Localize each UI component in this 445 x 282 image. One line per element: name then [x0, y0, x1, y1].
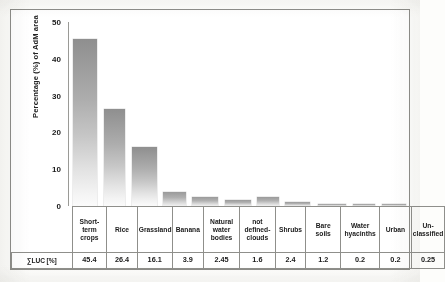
bar-slot: [221, 22, 254, 206]
y-tick-50: 50: [35, 18, 61, 27]
bar-grassland[interactable]: [132, 147, 157, 206]
value-cell: 45.4: [72, 253, 107, 269]
category-header-line: Banana: [176, 226, 200, 233]
category-header-cell: Waterhyacinths: [341, 207, 380, 253]
category-header-cell: Shrubs: [275, 207, 306, 253]
category-header-cell: Grassland: [137, 207, 172, 253]
category-header-line: clouds: [247, 234, 269, 241]
data-table: 0 Short-termcropsRiceGrasslandBananaNatu…: [11, 206, 445, 269]
category-header-line: water: [213, 226, 230, 233]
category-header-line: Shrubs: [279, 226, 302, 233]
category-header-line: Rice: [115, 226, 129, 233]
value-cell: 1.2: [306, 253, 341, 269]
category-header-cell: Naturalwaterbodies: [204, 207, 240, 253]
value-cell: 0.2: [341, 253, 380, 269]
y-tick-20: 20: [35, 128, 61, 137]
category-header-line: term: [82, 226, 97, 233]
table-corner-cell: 0: [12, 207, 73, 253]
category-header-line: crops: [80, 234, 98, 241]
bar-slot: [350, 22, 379, 206]
value-cell: 16.1: [137, 253, 172, 269]
category-header-cell: Rice: [107, 207, 138, 253]
category-header-line: Bare soils: [316, 222, 331, 237]
bar-slot: [101, 22, 129, 206]
bar-shrubs[interactable]: [257, 197, 278, 206]
category-header-cell: Urban: [380, 207, 412, 253]
category-header-line: Urban: [386, 226, 405, 233]
bar-slot: [69, 22, 101, 206]
table-row-values: ∑LUC [%] 45.426.416.13.92.451.62.41.20.2…: [12, 253, 445, 269]
bar-slot: [160, 22, 189, 206]
bar-slot: [254, 22, 282, 206]
y-tick-40: 40: [35, 54, 61, 63]
category-header-line: Natural: [210, 218, 233, 225]
value-cell: 26.4: [107, 253, 138, 269]
plot-region: Percentage (%) of AdM area 50 40 30 20 1…: [11, 10, 411, 206]
bar-slot: [378, 22, 409, 206]
category-header-line: Un-: [422, 222, 433, 229]
series-row-label: ∑LUC [%]: [12, 253, 73, 269]
category-header-cell: Bare soils: [306, 207, 341, 253]
bars-area: [69, 22, 409, 206]
value-cell: 0.25: [411, 253, 445, 269]
category-header-line: hyacinths: [345, 230, 376, 237]
y-tick-30: 30: [35, 91, 61, 100]
bar-slot: [189, 22, 222, 206]
value-cell: 2.4: [275, 253, 306, 269]
value-cell: 2.45: [204, 253, 240, 269]
value-cell: 3.9: [172, 253, 204, 269]
category-header-line: Short-: [80, 218, 100, 225]
y-axis-tick-labels: 50 40 30 20 10 0: [33, 10, 61, 206]
table-row-categories: 0 Short-termcropsRiceGrasslandBananaNatu…: [12, 207, 445, 253]
value-cell: 1.6: [239, 253, 275, 269]
value-cell: 0.2: [380, 253, 412, 269]
bar-banana[interactable]: [163, 192, 185, 206]
category-header-cell: Short-termcrops: [72, 207, 107, 253]
bar-slot: [128, 22, 160, 206]
category-header-line: not: [252, 218, 262, 225]
bar-natural-water-bodies[interactable]: [192, 197, 218, 206]
y-tick-10: 10: [35, 165, 61, 174]
category-header-line: Water: [351, 222, 369, 229]
category-header-line: defined-: [244, 226, 270, 233]
bar-short-term-crops[interactable]: [73, 39, 98, 206]
bar-slot: [314, 22, 350, 206]
category-header-cell: notdefined-clouds: [239, 207, 275, 253]
category-header-line: bodies: [211, 234, 233, 241]
category-header-cell: Banana: [172, 207, 204, 253]
bar-slot: [282, 22, 314, 206]
category-header-line: Grassland: [139, 226, 172, 233]
bar-rice[interactable]: [104, 109, 125, 206]
figure-frame: Percentage (%) of AdM area 50 40 30 20 1…: [10, 9, 410, 270]
y-tick-zero-label: 0: [61, 207, 65, 208]
category-header-line: classified: [413, 230, 443, 237]
category-header-cell: Un-classified: [411, 207, 445, 253]
